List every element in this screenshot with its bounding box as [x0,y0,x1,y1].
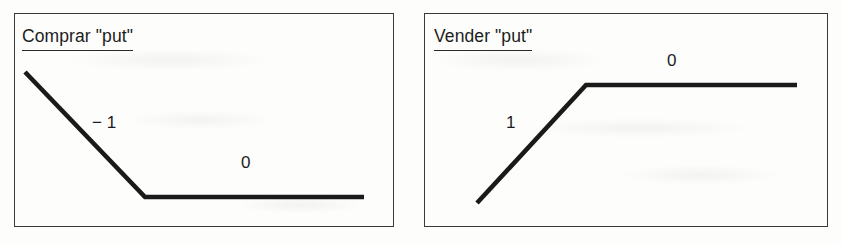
payoff-chart-vender-put [0,0,842,244]
slope-label-vender-put-zero: 0 [667,52,676,69]
slope-label-vender-put-one: 1 [506,114,515,131]
payoff-line-vender-put [477,85,797,203]
